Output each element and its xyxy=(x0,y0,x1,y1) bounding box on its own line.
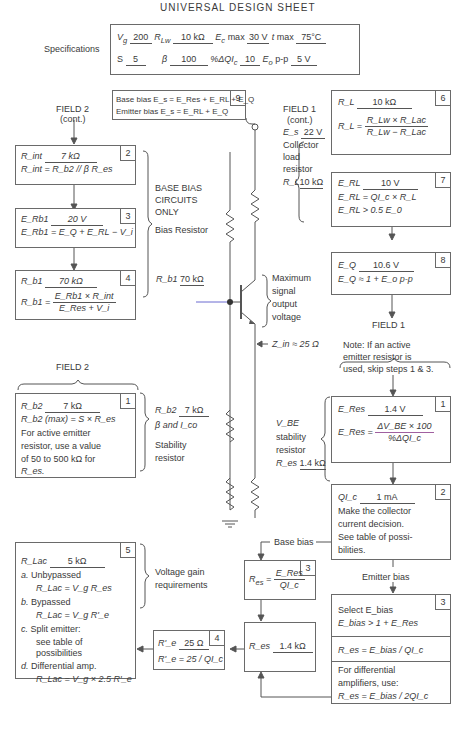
rb1-value: 70 kΩ xyxy=(45,276,97,288)
box-2-qic: 2 QI_c 1 mA Make the collector current d… xyxy=(331,484,451,560)
field2-title: FIELD 2 xyxy=(56,362,89,373)
box-2-rint: 2 R_int 7 kΩ R_int = R_b2 // β R_es xyxy=(15,145,136,185)
erb1-value: 20 V xyxy=(51,214,103,226)
emitter-bias-branch-label: Emitter bias xyxy=(362,572,410,583)
box-4-rb1: 4 R_b1 70 kΩ R_b1 = E_Rb1 × R_intE_Res +… xyxy=(15,270,136,320)
rl-value: 10 kΩ xyxy=(357,97,412,109)
re-value: 25 Ω xyxy=(179,638,209,650)
rb1-annotation: R_b1 70 kΩ xyxy=(156,274,204,286)
box-1-rb2: 1 R_b2 7 kΩ R_b2 (max) = S × R_es For ac… xyxy=(15,393,136,478)
rint-value: 7 kΩ xyxy=(45,151,97,163)
box-1-eres: 1 E_Res 1.4 V E_Res = ΔV_BE × 100%ΔQI_c xyxy=(331,396,451,463)
bias-resistor-label: Bias Resistor xyxy=(155,225,208,236)
erl-value: 10 V xyxy=(363,178,418,190)
ec-max-value: 30 V xyxy=(247,32,269,44)
t-max-value: 75°C xyxy=(296,32,326,44)
rlac-value: 5 kΩ xyxy=(50,556,105,568)
specifications-box: Vg 200 RLw 10 kΩ Ec max 30 V t max 75°C … xyxy=(110,24,360,75)
field1-title: FIELD 1 xyxy=(372,320,405,331)
page-title: UNIVERSAL DESIGN SHEET xyxy=(160,2,316,13)
rb2-value: 7 kΩ xyxy=(45,401,100,413)
box-5-rlac: 5 R_Lac 5 kΩ a. Unbypassed R_Lac = V_g R… xyxy=(15,542,136,679)
qic-value: 1 mA xyxy=(360,492,415,504)
spec-row-1: Vg 200 RLw 10 kΩ Ec max 30 V t max 75°C xyxy=(117,32,326,46)
box-9-supply: 9 Base bias E_s = E_Res + E_RL + E_Q Emi… xyxy=(112,90,246,120)
zin-label: Z_in ≈ 25 Ω xyxy=(272,339,319,350)
box-8-eq: 8 E_Q 10.6 V E_Q ≈ 1 + E_o p-p xyxy=(331,252,451,295)
eo-pp-value: 5 V xyxy=(291,54,317,66)
base-bias-branch-label: Base bias xyxy=(274,537,314,548)
box-3-erb1: 3 E_Rb1 20 V E_Rb1 = E_Q + E_RL − V_i xyxy=(15,208,136,248)
eres-value: 1.4 V xyxy=(368,404,423,416)
specifications-label: Specifications xyxy=(44,44,100,55)
rlw-value: 10 kΩ xyxy=(173,32,213,44)
vg-value: 200 xyxy=(130,32,152,44)
s-value: 5 xyxy=(126,54,146,66)
box-6-rl: 6 R_L 10 kΩ R_L = R_Lw × R_LacR_Lw − R_L… xyxy=(331,90,451,155)
field1-cont-title: FIELD 1 xyxy=(283,104,316,115)
box-4-re: 4 R'_e 25 Ω R'_e = 25 / QI_c xyxy=(153,630,225,670)
eq-value: 10.6 V xyxy=(359,260,414,272)
res-value: 1.4 kΩ xyxy=(273,641,313,653)
es-value: 22 V xyxy=(301,127,325,139)
box-3-ebias: 3 Select E_bias E_bias > 1 + E_Res R_es … xyxy=(331,594,451,704)
spec-row-2: S 5 β 100 %ΔQIc 10 Eo p-p 5 V xyxy=(117,54,317,68)
field2-cont-subtitle: (cont.) xyxy=(60,114,86,125)
box-7-erl: 7 E_RL 10 V E_RL = QI_c × R_L E_RL > 0.5… xyxy=(331,172,451,227)
beta-value: 100 xyxy=(170,54,208,66)
dqic-value: 10 xyxy=(240,54,260,66)
res-value-box: R_es 1.4 kΩ xyxy=(244,622,316,672)
box-3-res-formula: 3 Res = E_ResQI_c xyxy=(244,560,316,600)
